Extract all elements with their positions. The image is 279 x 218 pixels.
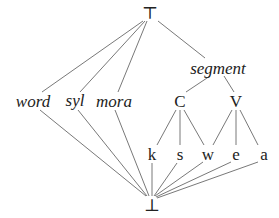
node-segment: segment <box>190 60 246 77</box>
edge <box>40 110 146 196</box>
node-top: ⊤ <box>142 5 158 22</box>
node-a: a <box>260 146 268 163</box>
edge <box>78 110 147 196</box>
node-bottom: ⊥ <box>144 197 160 214</box>
edge <box>154 163 177 196</box>
edge <box>157 110 176 145</box>
node-C: C <box>174 93 185 110</box>
edge <box>186 76 210 92</box>
edge <box>184 110 204 145</box>
edge <box>213 110 232 145</box>
edge <box>42 21 143 92</box>
edge <box>155 162 203 196</box>
node-word: word <box>16 93 50 110</box>
edge <box>118 21 147 92</box>
node-w: w <box>202 146 214 163</box>
edge <box>115 110 149 196</box>
node-s: s <box>177 146 184 163</box>
edge <box>156 162 231 197</box>
node-k: k <box>148 146 157 163</box>
edge <box>224 76 234 92</box>
edge <box>158 21 205 58</box>
node-V: V <box>230 93 242 110</box>
node-e: e <box>232 146 240 163</box>
node-syl: syl <box>66 92 85 109</box>
edge <box>80 21 145 92</box>
edge <box>240 110 258 145</box>
edge <box>157 162 258 198</box>
node-mora: mora <box>96 93 132 110</box>
